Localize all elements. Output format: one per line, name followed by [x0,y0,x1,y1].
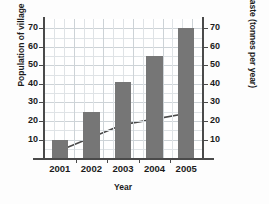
tick-mark [39,84,44,85]
tick-mark [203,84,208,85]
y-axis-right-title: Waste (tonnes per year) [248,0,258,115]
gridline-vertical [143,19,144,158]
plot-area [44,19,202,158]
bar-2004 [146,56,162,158]
bar-2002 [83,112,99,158]
y-axis-left-title: Population of village [16,0,26,115]
tick-mark [39,140,44,141]
gridline-vertical [172,19,173,158]
tick-mark [203,140,208,141]
x-axis-tick-label-2005: 2005 [164,163,208,174]
tick-mark [203,47,208,48]
y-axis-right-tick-label: 20 [210,115,234,125]
y-axis-right-tick-label: 10 [210,134,234,144]
bar-2005 [178,28,194,158]
gridline-vertical [74,19,75,158]
x-axis-spine [33,158,214,160]
tick-mark [39,28,44,29]
tick-mark [39,121,44,122]
y-axis-right-tick-label: 70 [210,22,234,32]
y-axis-right-tick-label: 60 [210,41,234,51]
chart-figure: 70605040302010 70605040302010 2001200220… [0,0,269,204]
tick-mark [39,65,44,66]
gridline-vertical [133,19,134,158]
y-axis-left-tick-label: 10 [0,134,38,144]
gridline-vertical [54,19,55,158]
y-axis-right-tick-label: 30 [210,96,234,106]
bar-2003 [115,82,131,158]
tick-mark [203,121,208,122]
gridline-vertical [64,19,65,158]
bar-2001 [52,140,68,159]
gridline-vertical [103,19,104,158]
y-axis-right-tick-label: 50 [210,59,234,69]
x-axis-title: Year [44,182,202,192]
tick-mark [39,47,44,48]
y-axis-left-tick-label: 20 [0,115,38,125]
y-axis-right-tick-label: 40 [210,78,234,88]
tick-mark [203,65,208,66]
tick-mark [203,28,208,29]
tick-mark [203,102,208,103]
tick-mark [39,102,44,103]
